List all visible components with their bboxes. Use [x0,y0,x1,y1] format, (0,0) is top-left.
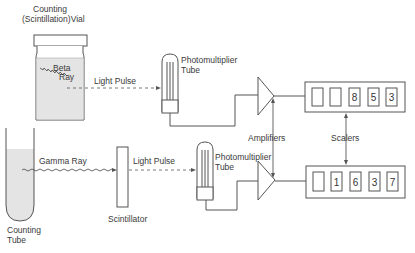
scaler-bottom-digit: 6 [353,177,359,188]
pmt-bottom-label: Photomultiplier [215,152,271,162]
arrowhead-icon [191,168,196,172]
pmt-bottom-label: Tube [215,162,234,172]
diagram-canvas: 8 5 3 1 6 3 7 [0,0,415,253]
vial-label: Counting [33,4,67,14]
amplifier-top [258,77,274,115]
scintillator-label: Scintillator [108,214,147,224]
scaler-bottom-digit: 7 [390,177,396,188]
scaler-top-digit: 3 [389,92,395,103]
scalers-label: Scalers [331,133,359,143]
counting-tube-label: Tube [7,235,26,245]
arrowhead-icon [112,168,117,172]
light-pulse-label: Light Pulse [133,156,175,166]
gamma-ray-label: Gamma Ray [39,156,87,166]
photomultiplier-tube-top [162,54,178,113]
scintillator [117,147,128,207]
photomultiplier-tube-bottom [197,142,213,200]
scaler-bottom-digit: 1 [334,177,340,188]
amplifiers-label: Amplifiers [248,133,285,143]
gamma-ray-arrow [22,169,114,171]
scaler-bottom-digit: 3 [372,177,378,188]
light-pulse-label: Light Pulse [94,76,136,86]
counting-tube-label: Counting [7,225,41,235]
counting-tube [6,128,34,221]
arrowhead-icon [344,113,348,118]
wire-bottom [206,181,258,210]
scaler-top-digit: 8 [352,92,358,103]
vial-label: (Scintillation)Vial [22,14,85,24]
wire-top [170,95,258,126]
amplifier-bottom [258,161,275,200]
arrowhead-icon [156,86,161,90]
arrowhead-icon [344,160,348,165]
scaler-top-digit: 5 [371,92,377,103]
beta-ray-label: Ray [59,72,74,82]
pmt-top-label: Photomultiplier [181,55,237,65]
pmt-top-label: Tube [181,65,200,75]
